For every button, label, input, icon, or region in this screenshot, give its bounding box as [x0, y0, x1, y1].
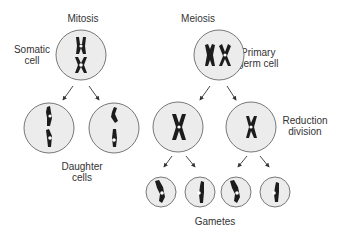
arrow-to-daughter-right [89, 86, 99, 100]
somatic-cell-membrane [56, 30, 106, 80]
centromere [112, 138, 116, 142]
cell-division-diagram [0, 0, 342, 236]
gamete-1 [146, 177, 176, 207]
reduction-cell-right [226, 102, 276, 152]
arrow-to-reduction-right [227, 86, 236, 100]
somatic-cell [56, 30, 106, 80]
arrow-to-gamete-2 [186, 156, 195, 167]
gamete-3 [221, 177, 251, 207]
primary-germ-cell [194, 30, 244, 80]
daughter-cell-right [89, 103, 139, 153]
arrow-to-gamete-1 [164, 156, 172, 167]
gamete-4 [260, 177, 290, 207]
centromere [48, 136, 52, 140]
chromatid [112, 129, 117, 147]
centromere [177, 125, 180, 128]
centromere [197, 191, 201, 195]
centromere [160, 191, 164, 195]
arrow-to-reduction-left [200, 86, 210, 100]
reduction-cell-left [153, 102, 203, 152]
centromere [235, 191, 239, 195]
arrow-to-gamete-4 [260, 156, 269, 167]
centromere [249, 125, 252, 128]
arrow-to-daughter-left [63, 86, 73, 100]
daughter-cell-left [24, 103, 74, 153]
primary-germ-cell-membrane [194, 30, 244, 80]
gamete-2 [185, 177, 215, 207]
arrow-to-gamete-3 [238, 156, 247, 167]
centromere [48, 114, 51, 117]
centromere [272, 191, 276, 195]
